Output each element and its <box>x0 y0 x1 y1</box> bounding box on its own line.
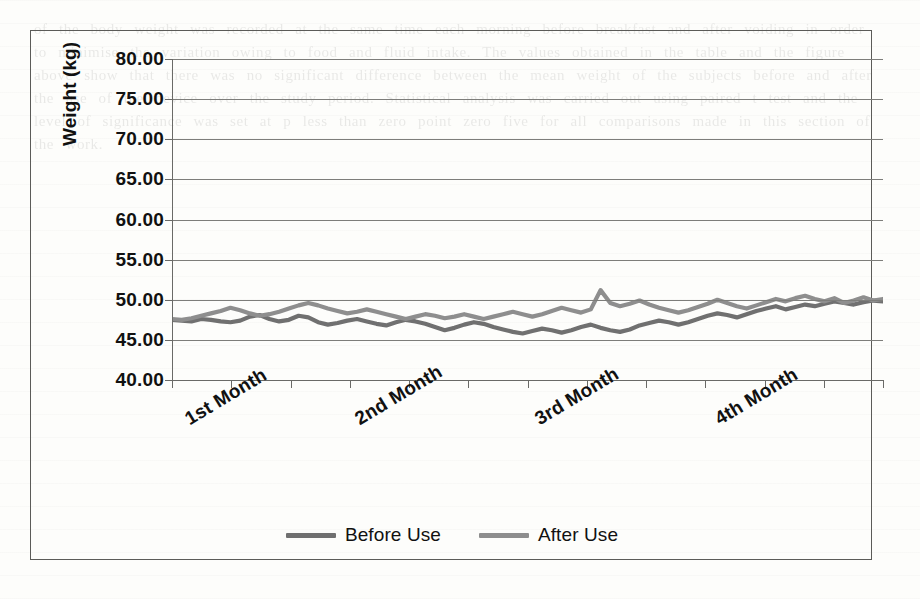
legend-color-swatch <box>286 533 336 538</box>
legend-label: After Use <box>538 524 618 546</box>
y-axis-tick-labels: 80.0075.0070.0065.0060.0055.0050.0045.00… <box>51 59 164 380</box>
y-axis-tick <box>165 139 172 140</box>
x-axis-tick <box>705 380 706 388</box>
chart-legend: Before UseAfter Use <box>31 524 873 546</box>
y-axis-tick-label: 50.00 <box>115 289 164 311</box>
y-axis-tick-label: 65.00 <box>115 168 164 190</box>
x-axis-tick <box>172 380 173 388</box>
chart-frame: Weight (kg) 80.0075.0070.0065.0060.0055.… <box>30 30 872 560</box>
gridline <box>172 139 883 140</box>
x-axis-tick <box>528 380 529 388</box>
y-axis-tick <box>165 99 172 100</box>
gridline <box>172 260 883 261</box>
y-axis-tick <box>165 260 172 261</box>
plot-area <box>172 59 883 380</box>
y-axis-line <box>172 59 173 380</box>
y-axis-tick <box>165 340 172 341</box>
x-axis-tick <box>291 380 292 388</box>
y-axis-tick-label: 75.00 <box>115 88 164 110</box>
gridline <box>172 340 883 341</box>
y-axis-tick <box>165 220 172 221</box>
legend-item[interactable]: Before Use <box>286 524 441 546</box>
gridline <box>172 300 883 301</box>
y-axis-tick-label: 60.00 <box>115 209 164 231</box>
gridline <box>172 179 883 180</box>
y-axis-tick-label: 70.00 <box>115 128 164 150</box>
x-axis-tick <box>883 380 884 388</box>
legend-color-swatch <box>479 533 529 538</box>
x-axis-tick <box>646 380 647 388</box>
gridline <box>172 59 883 60</box>
y-axis-tick-label: 45.00 <box>115 329 164 351</box>
y-axis-tick <box>165 380 172 381</box>
gridline <box>172 99 883 100</box>
y-axis-tick <box>165 59 172 60</box>
x-axis-tick <box>350 380 351 388</box>
y-axis-tick-label: 55.00 <box>115 249 164 271</box>
y-axis-tick <box>165 179 172 180</box>
x-axis-tick <box>824 380 825 388</box>
y-axis-tick <box>165 300 172 301</box>
legend-item[interactable]: After Use <box>479 524 618 546</box>
x-axis-tick <box>468 380 469 388</box>
y-axis-tick-label: 40.00 <box>115 369 164 391</box>
legend-label: Before Use <box>345 524 441 546</box>
gridline <box>172 220 883 221</box>
y-axis-tick-label: 80.00 <box>115 48 164 70</box>
